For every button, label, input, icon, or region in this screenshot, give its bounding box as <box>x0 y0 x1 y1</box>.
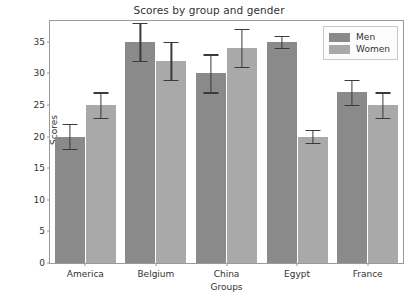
error-bar-cap <box>204 92 219 93</box>
y-axis-tick-mark <box>47 136 50 137</box>
x-axis-tick-mark <box>367 263 368 266</box>
error-bar-cap <box>204 54 219 55</box>
y-axis-tick-mark <box>47 168 50 169</box>
error-bar-cap <box>164 80 179 81</box>
x-axis-tick-mark <box>297 263 298 266</box>
error-bar-cap <box>93 118 108 119</box>
bar-egypt-men <box>267 42 297 263</box>
legend-item-men: Men <box>329 31 390 43</box>
error-bar-cap <box>93 92 108 93</box>
legend-label-women: Women <box>356 43 390 55</box>
error-bar-cap <box>376 92 391 93</box>
bar-belgium-men <box>125 42 155 263</box>
x-axis-tick-mark <box>155 263 156 266</box>
error-bar-cap <box>274 48 289 49</box>
error-bar-line <box>210 54 211 92</box>
y-axis-tick-mark <box>47 41 50 42</box>
bar-america-women <box>86 105 116 263</box>
error-bar-cap <box>345 105 360 106</box>
error-bar-line <box>312 130 313 143</box>
error-bar-line <box>352 80 353 105</box>
error-bar-cap <box>345 80 360 81</box>
x-axis-label: Groups <box>50 282 403 292</box>
x-axis-tick-label: Egypt <box>284 269 310 279</box>
bar-china-men <box>196 73 226 263</box>
error-bar-cap <box>133 23 148 24</box>
error-bar-line <box>383 92 384 117</box>
y-axis-tick-mark <box>47 231 50 232</box>
error-bar-line <box>171 42 172 80</box>
error-bar-line <box>281 36 282 49</box>
y-axis-tick-mark <box>47 73 50 74</box>
bar-belgium-women <box>156 61 186 263</box>
bar-china-women <box>227 48 257 263</box>
x-axis-tick-mark <box>85 263 86 266</box>
error-bar-cap <box>62 149 77 150</box>
legend-swatch-women-icon <box>329 45 350 54</box>
legend-item-women: Women <box>329 43 390 55</box>
error-bar-cap <box>305 143 320 144</box>
error-bar-line <box>241 29 242 67</box>
legend-label-men: Men <box>356 31 375 43</box>
error-bar-cap <box>274 36 289 37</box>
chart-figure: Scores by group and gender Scores Groups… <box>0 0 418 303</box>
bar-america-men <box>55 137 85 263</box>
bar-egypt-women <box>298 137 328 263</box>
error-bar-line <box>69 124 70 149</box>
error-bar-line <box>140 23 141 61</box>
error-bar-cap <box>164 42 179 43</box>
x-axis-tick-label: France <box>353 269 383 279</box>
error-bar-cap <box>133 61 148 62</box>
y-axis-tick-mark <box>47 199 50 200</box>
x-axis-tick-label: Belgium <box>137 269 174 279</box>
y-axis-tick-mark <box>47 263 50 264</box>
chart-legend: Men Women <box>323 26 398 60</box>
plot-axes: Scores Groups Men Women 05101520253035Am… <box>49 20 404 264</box>
bar-france-men <box>337 92 367 263</box>
x-axis-tick-label: America <box>67 269 104 279</box>
legend-swatch-men-icon <box>329 33 350 42</box>
error-bar-line <box>100 92 101 117</box>
y-axis-tick-mark <box>47 105 50 106</box>
x-axis-tick-mark <box>226 263 227 266</box>
x-axis-tick-label: China <box>214 269 240 279</box>
bar-france-women <box>368 105 398 263</box>
chart-title: Scores by group and gender <box>0 4 418 16</box>
error-bar-cap <box>235 29 250 30</box>
error-bar-cap <box>305 130 320 131</box>
error-bar-cap <box>376 118 391 119</box>
error-bar-cap <box>235 67 250 68</box>
error-bar-cap <box>62 124 77 125</box>
